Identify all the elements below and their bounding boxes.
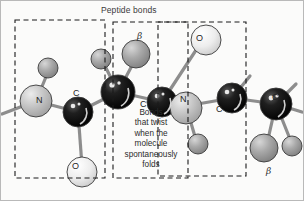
atom-carbon-left [63, 97, 93, 127]
atom-label-carbon-right: C [216, 105, 223, 114]
figure-title: Peptide bonds [101, 6, 157, 15]
atom-hydrogen-far-right [282, 136, 302, 156]
callout-line-1: Bonds [112, 108, 190, 118]
atom-label-nitrogen-left: N [36, 96, 43, 105]
atom-hydrogen-mid [91, 49, 111, 69]
callout-line-5: spontaneously [112, 150, 190, 160]
atom-label-beta-bottom: β [266, 167, 271, 176]
atom-carbon-alpha-mid [101, 75, 135, 109]
atom-label-beta-top: β [137, 32, 142, 41]
atom-hydrogen-right [188, 134, 208, 154]
atom-label-oxygen-top: O [196, 34, 203, 43]
atom-beta-carbon-bottom [250, 134, 278, 162]
atom-beta-carbon-top [122, 40, 150, 68]
callout-bonds-that-twist: Bonds that twist when the molecule spont… [112, 108, 190, 170]
figure-canvas: Peptide bonds N C β C O O N C C β Bonds … [0, 0, 304, 201]
callout-line-4: molecule [112, 139, 190, 149]
atom-label-nitrogen-right: N [180, 95, 187, 104]
callout-line-2: that twist [112, 118, 190, 128]
atom-label-carbon-left: C [73, 89, 80, 98]
atom-label-carbon-far-right: C [272, 93, 279, 102]
callout-line-6: folds [112, 160, 190, 170]
atom-hydrogen-left [38, 58, 58, 78]
atom-label-oxygen-bottom: O [72, 162, 79, 171]
callout-line-3: when the [112, 129, 190, 139]
molecule-diagram [0, 0, 304, 201]
